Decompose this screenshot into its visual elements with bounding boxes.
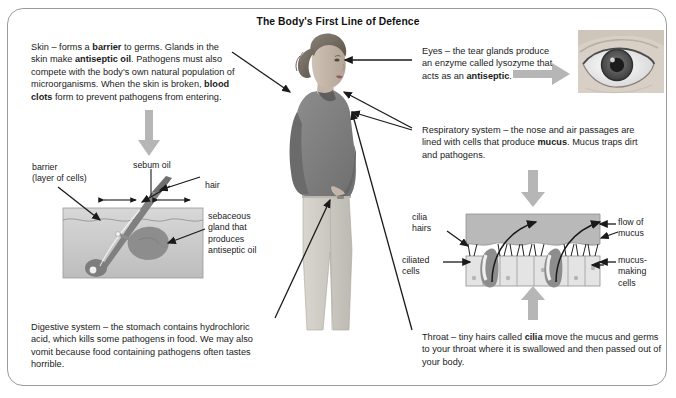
eyes-annotation: Eyes – the tear glands produce an enzyme… xyxy=(422,45,555,82)
label-sebaceous-gland: sebaceous gland that produces antiseptic… xyxy=(208,211,256,256)
label-cilia-line2: hairs xyxy=(412,223,431,234)
block-arrow-digestive-up xyxy=(255,282,277,310)
label-mucus-making-cells: mucus- making cells xyxy=(618,255,647,289)
block-arrow-throat-up xyxy=(521,286,545,320)
label-ciliated-line2: cells xyxy=(402,266,429,277)
throat-text-part-1: cilia xyxy=(525,332,543,342)
skin-annotation: Skin – forms a barrier to germs. Glands … xyxy=(31,41,236,103)
skin-text-part-1: barrier xyxy=(92,42,121,52)
label-cilia-line1: cilia xyxy=(412,212,431,223)
label-ciliated-line1: ciliated xyxy=(402,255,429,266)
label-mucus-line1: mucus- xyxy=(618,255,647,266)
label-barrier-line2: (layer of cells) xyxy=(32,173,87,184)
eyes-text-part-1: antiseptic xyxy=(466,71,509,81)
skin-text-part-3: antiseptic oil xyxy=(75,54,131,64)
throat-text-part-0: Throat – tiny hairs called xyxy=(422,332,525,342)
block-arrow-respiratory-down xyxy=(521,170,545,207)
leader-respiratory xyxy=(344,92,412,128)
label-cilia-hairs: cilia hairs xyxy=(412,212,431,235)
person-photo xyxy=(290,34,356,330)
label-flow-line1: flow of xyxy=(618,217,644,228)
throat-annotation: Throat – tiny hairs called cilia move th… xyxy=(422,331,662,368)
label-flow-of-mucus: flow of mucus xyxy=(618,217,644,240)
label-sebaceous-line4: antiseptic oil xyxy=(208,245,256,256)
eyes-text-part-2: . xyxy=(509,71,512,81)
label-sebaceous-line3: produces xyxy=(208,234,256,245)
label-barrier-line1: barrier xyxy=(32,162,87,173)
label-ciliated-cells: ciliated cells xyxy=(402,255,429,278)
digestive-text-part-0: Digestive system – the stomach contains … xyxy=(31,322,253,369)
label-hair: hair xyxy=(205,180,220,191)
respiratory-text-part-1: mucus xyxy=(537,137,567,147)
label-barrier: barrier (layer of cells) xyxy=(32,162,87,185)
eye-photo xyxy=(578,30,664,93)
diagram-canvas: The Body's First Line of Defence xyxy=(0,0,676,398)
respiratory-annotation: Respiratory system – the nose and air pa… xyxy=(422,124,654,161)
label-mucus-line2: making xyxy=(618,266,647,277)
label-sebum-oil-text: sebum oil xyxy=(133,160,171,171)
skin-text-part-6: form to prevent pathogens from entering. xyxy=(52,92,221,102)
leader-skin xyxy=(232,52,290,92)
label-sebaceous-line2: gland that xyxy=(208,222,256,233)
leader-throat xyxy=(352,112,412,330)
label-flow-line2: mucus xyxy=(618,228,644,239)
label-mucus-line3: cells xyxy=(618,278,647,289)
skin-cross-section-diagram xyxy=(58,169,205,278)
label-sebaceous-line1: sebaceous xyxy=(208,211,256,222)
leader-respiratory-2 xyxy=(352,112,412,130)
digestive-annotation: Digestive system – the stomach contains … xyxy=(31,321,264,371)
label-hair-text: hair xyxy=(205,180,220,191)
block-arrow-skin-down xyxy=(138,110,160,156)
skin-text-part-0: Skin – forms a xyxy=(31,42,92,52)
cilia-epithelium-diagram xyxy=(443,214,618,287)
label-sebum-oil: sebum oil xyxy=(133,160,171,171)
